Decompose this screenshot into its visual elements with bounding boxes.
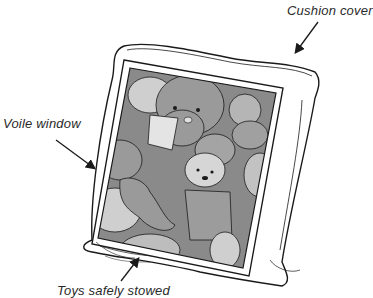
cushion-cover-arrow bbox=[296, 22, 318, 52]
toys-stowed-arrow bbox=[121, 259, 138, 281]
cushion-cover-label: Cushion cover bbox=[287, 3, 373, 18]
toys-stowed-label: Toys safely stowed bbox=[57, 283, 170, 298]
voile-window-arrow bbox=[56, 140, 94, 168]
voile-window-label: Voile window bbox=[3, 116, 81, 131]
